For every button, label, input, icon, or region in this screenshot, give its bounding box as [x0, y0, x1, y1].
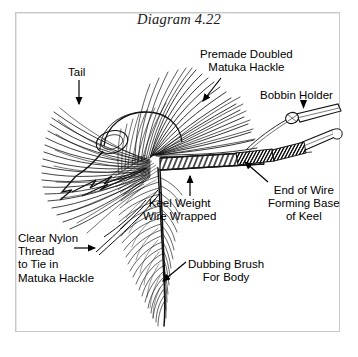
diagram-figure: Diagram 4.22: [0, 0, 358, 357]
label-bobbin-holder: Bobbin Holder: [260, 89, 333, 102]
label-endwire-line-1: End of Wire: [274, 184, 334, 196]
label-nylon-line-2: Thread: [18, 245, 54, 257]
figure-title: Diagram 4.22: [0, 11, 358, 28]
label-keel-weight-wire-wrapped: Keel Weight Wire Wrapped: [143, 197, 216, 223]
label-premade-doubled-matuka-hackle: Premade Doubled Matuka Hackle: [200, 48, 293, 74]
label-tail-text: Tail: [68, 66, 85, 78]
label-dubbing-line-1: Dubbing Brush: [188, 258, 264, 270]
label-clear-nylon-thread: Clear Nylon Thread to Tie in Matuka Hack…: [18, 232, 94, 285]
label-endwire-line-3: of Keel: [286, 210, 322, 222]
label-nylon-line-1: Clear Nylon: [18, 232, 78, 244]
label-dubbing-line-2: For Body: [203, 271, 250, 283]
label-nylon-line-4: Matuka Hackle: [18, 272, 94, 284]
label-tail: Tail: [68, 66, 85, 79]
label-bobbin-text: Bobbin Holder: [260, 89, 333, 101]
label-endwire-line-2: Forming Base: [268, 197, 340, 209]
label-keel-line-1: Keel Weight: [149, 197, 211, 209]
label-end-of-wire-forming-base-of-keel: End of Wire Forming Base of Keel: [268, 184, 340, 224]
label-nylon-line-3: to Tie in: [18, 258, 58, 270]
label-hackle-line-1: Premade Doubled: [200, 48, 293, 60]
label-hackle-line-2: Matuka Hackle: [208, 61, 284, 73]
label-keel-line-2: Wire Wrapped: [143, 210, 216, 222]
label-dubbing-brush-for-body: Dubbing Brush For Body: [188, 258, 264, 284]
